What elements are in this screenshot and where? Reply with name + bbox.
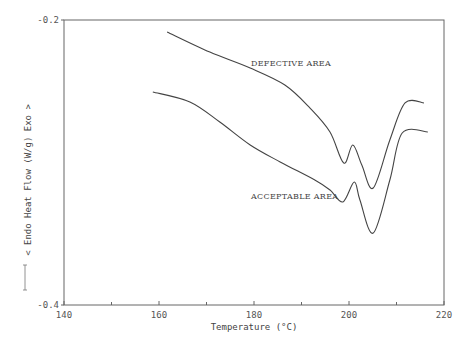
annotations: DEFECTIVE AREAACCEPTABLE AREA — [250, 59, 338, 201]
axis-ticks: 140160180200220-0.2-0.4 — [37, 15, 452, 320]
x-tick-label: 200 — [341, 310, 357, 320]
x-tick-label: 160 — [151, 310, 167, 320]
series-annotation: ACCEPTABLE AREA — [250, 192, 338, 201]
y-tick-label: -0.4 — [37, 300, 59, 310]
y-axis-title: < Endo Heat Flow (W/g) Exo > — [23, 104, 33, 256]
dsc-chart: 140160180200220-0.2-0.4 DEFECTIVE AREAAC… — [0, 0, 473, 346]
x-tick-label: 220 — [436, 310, 452, 320]
x-tick-label: 180 — [246, 310, 262, 320]
svg-text:< Endo Heat Flow (W/g) Exo: < Endo Heat Flow (W/g) Exo > — [23, 104, 33, 256]
series-line — [153, 92, 428, 233]
series-annotation: DEFECTIVE AREA — [251, 59, 331, 68]
series-line — [167, 32, 424, 189]
y-scale-bar-icon — [23, 265, 27, 290]
x-tick-label: 140 — [56, 310, 72, 320]
x-axis-title: Temperature (°C) — [211, 322, 298, 332]
y-tick-label: -0.2 — [37, 15, 59, 25]
